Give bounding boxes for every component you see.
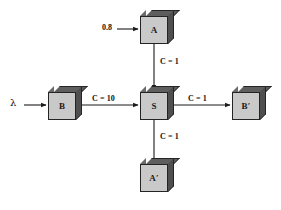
node-b-label: B xyxy=(48,92,76,120)
input-label-0-8: 0.8 xyxy=(102,23,112,32)
node-s-label: S xyxy=(140,92,168,120)
node-b-prime[interactable]: B′ xyxy=(232,86,266,120)
diagram-canvas: 0.8 λ C = 1 C = 10 C = 1 C = 1 A B S B′ xyxy=(0,0,281,210)
edge-label-s-to-bprime: C = 1 xyxy=(188,94,207,103)
edge-label-a-to-s: C = 1 xyxy=(160,57,179,66)
node-s[interactable]: S xyxy=(140,86,174,120)
node-b[interactable]: B xyxy=(48,86,82,120)
node-a-prime-side-face xyxy=(168,158,174,192)
node-a-prime-label: A′ xyxy=(140,164,168,192)
node-b-prime-side-face xyxy=(260,86,266,120)
node-a-prime[interactable]: A′ xyxy=(140,158,174,192)
node-s-side-face xyxy=(168,86,174,120)
node-a-label: A xyxy=(140,16,168,44)
edge-label-b-to-s: C = 10 xyxy=(92,94,115,103)
node-b-prime-label: B′ xyxy=(232,92,260,120)
input-label-lambda: λ xyxy=(10,97,16,108)
edge-label-s-to-aprime: C = 1 xyxy=(160,132,179,141)
node-a[interactable]: A xyxy=(140,10,174,44)
node-b-side-face xyxy=(76,86,82,120)
node-a-side-face xyxy=(168,10,174,44)
